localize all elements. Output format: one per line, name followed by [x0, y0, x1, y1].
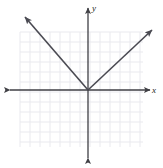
coordinate-plane-svg: x y [0, 0, 163, 168]
x-axis-label: x [151, 85, 156, 95]
y-axis-label: y [91, 3, 96, 13]
graph-figure: x y [0, 0, 163, 168]
grid-horizontal-lines [20, 32, 143, 142]
left-branch-ray [25, 17, 88, 90]
